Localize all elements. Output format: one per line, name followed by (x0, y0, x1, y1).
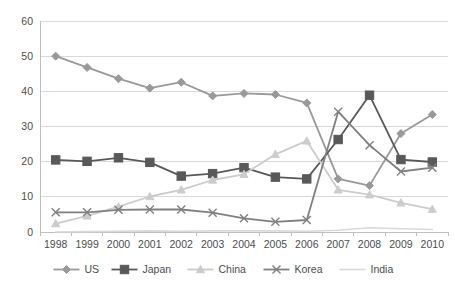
data-point-marker (120, 265, 128, 273)
gridlines (40, 21, 448, 232)
data-point-marker (146, 158, 154, 166)
y-tick-label: 20 (21, 155, 33, 167)
data-point-marker (177, 172, 185, 180)
data-point-marker (51, 156, 59, 164)
y-tick-label: 10 (21, 190, 33, 202)
data-point-marker (366, 141, 374, 149)
x-tick-label: 2010 (421, 238, 445, 250)
data-point-marker (83, 157, 91, 165)
x-tick-label: 2008 (358, 238, 382, 250)
data-point-marker (303, 175, 311, 183)
legend-item-china[interactable]: China (188, 263, 247, 275)
data-point-marker (366, 182, 374, 190)
legend-item-us[interactable]: US (54, 263, 100, 275)
x-tick-label: 2007 (327, 238, 351, 250)
data-point-marker (177, 78, 185, 86)
data-point-marker (114, 75, 122, 83)
plot-area (51, 52, 436, 232)
y-tick-label: 0 (27, 226, 33, 238)
legend-label: China (219, 263, 247, 275)
legend-label: Korea (295, 263, 323, 275)
x-tick-label: 2006 (295, 238, 319, 250)
data-point-marker (271, 173, 279, 181)
data-point-marker (303, 137, 311, 144)
chart-canvas: 0102030405060 19981999200020012002200320… (0, 0, 455, 294)
data-point-marker (114, 154, 122, 162)
x-axis-tick-marks (40, 232, 448, 236)
x-tick-label: 2001 (138, 238, 162, 250)
series-china (52, 137, 437, 227)
legend-item-korea[interactable]: Korea (264, 263, 323, 275)
y-tick-label: 40 (21, 85, 33, 97)
legend-label: India (371, 263, 394, 275)
legend-label: US (85, 263, 100, 275)
data-point-marker (428, 111, 436, 119)
line-chart: 0102030405060 19981999200020012002200320… (0, 0, 455, 294)
y-tick-label: 60 (21, 15, 33, 27)
data-point-marker (397, 130, 405, 138)
chart-legend: USJapanChinaKoreaIndia (54, 263, 394, 275)
data-point-marker (365, 91, 373, 99)
data-point-marker (334, 175, 342, 183)
x-tick-label: 2002 (170, 238, 194, 250)
x-tick-label: 2004 (232, 238, 256, 250)
data-point-marker (303, 99, 311, 107)
x-tick-label: 1998 (44, 238, 68, 250)
data-point-marker (83, 63, 91, 71)
series-india (56, 228, 433, 232)
x-axis-tick-labels: 1998199920002001200220032004200520062007… (44, 238, 444, 250)
x-tick-label: 2009 (389, 238, 413, 250)
y-tick-label: 30 (21, 120, 33, 132)
x-tick-label: 2000 (107, 238, 131, 250)
data-point-marker (63, 266, 71, 274)
legend-item-japan[interactable]: Japan (112, 263, 172, 275)
data-point-marker (52, 52, 60, 60)
data-point-marker (334, 135, 342, 143)
data-point-marker (397, 155, 405, 163)
y-tick-label: 50 (21, 50, 33, 62)
legend-item-india[interactable]: India (340, 263, 394, 275)
y-axis-tick-labels: 0102030405060 (21, 15, 33, 238)
x-tick-label: 2003 (201, 238, 225, 250)
x-tick-label: 1999 (75, 238, 99, 250)
data-point-marker (240, 89, 248, 97)
data-point-marker (209, 92, 217, 100)
legend-label: Japan (143, 263, 172, 275)
series-line (56, 228, 433, 232)
x-tick-label: 2005 (264, 238, 288, 250)
